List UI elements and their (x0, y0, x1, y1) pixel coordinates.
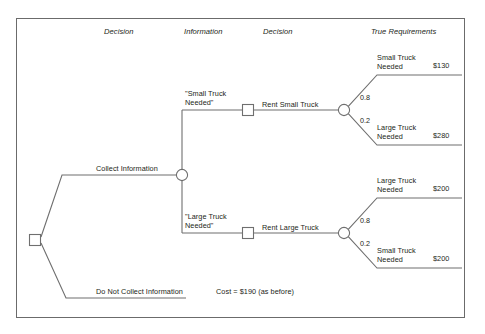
edge-label-rent-large-truck: Rent Large Truck (262, 224, 319, 233)
root-decision-node (30, 235, 41, 246)
probability-label-outcome-3: 0.8 (360, 217, 370, 226)
outcome-payoff-3: $200 (433, 185, 449, 194)
decision-tree-figure: Decision Information Decision True Requi… (0, 0, 485, 334)
edge-label-collect-information: Collect Information (96, 165, 158, 174)
column-header-information: Information (184, 28, 223, 37)
rent-large-truck-decision-node (243, 228, 254, 239)
edge-label-rent-small-truck: Rent Small Truck (262, 101, 318, 110)
probability-label-outcome-2: 0.2 (360, 117, 370, 126)
edge-label-large-truck-signal: "Large Truck Needed" (185, 212, 227, 230)
probability-label-outcome-4: 0.2 (360, 240, 370, 249)
information-chance-node (176, 169, 187, 180)
outcome-state-3: Large Truck Needed (377, 176, 416, 194)
edge-collect-information (41, 175, 182, 237)
tree-graphics (0, 0, 485, 334)
small-truck-outcome-chance-node (338, 104, 349, 115)
probability-label-outcome-1: 0.8 (360, 94, 370, 103)
column-header-decision-2: Decision (263, 28, 293, 37)
outcome-state-1: Small Truck Needed (377, 53, 416, 71)
no-information-cost-note: Cost = $190 (as before) (216, 288, 294, 297)
outcome-state-2: Large Truck Needed (377, 123, 416, 141)
rent-small-truck-decision-node (243, 105, 254, 116)
outcome-payoff-1: $130 (433, 62, 449, 71)
outcome-payoff-4: $200 (433, 255, 449, 264)
large-truck-outcome-chance-node (338, 227, 349, 238)
column-header-decision-1: Decision (104, 28, 134, 37)
outcome-payoff-2: $280 (433, 132, 449, 141)
edge-label-small-truck-signal: "Small Truck Needed" (185, 89, 226, 107)
column-header-true-requirements: True Requirements (371, 28, 436, 37)
outcome-state-4: Small Truck Needed (377, 246, 416, 264)
edge-label-do-not-collect-information: Do Not Collect Information (96, 288, 183, 297)
